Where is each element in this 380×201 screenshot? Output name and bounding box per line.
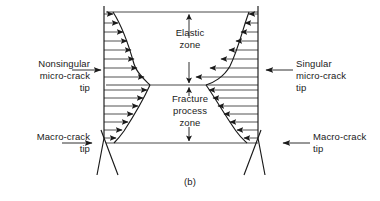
label-line: zone xyxy=(150,117,230,129)
right-crack-outer-edge xyxy=(258,6,265,175)
label-elastic-zone: Elastic zone xyxy=(152,27,228,51)
label-nonsingular-micro-crack-tip: Nonsingular micro-crack tip xyxy=(6,58,90,94)
label-line: zone xyxy=(152,39,228,51)
label-line: Nonsingular xyxy=(6,58,90,70)
figure-caption: (b) xyxy=(160,176,220,188)
figure-container: Nonsingular micro-crack tip Macro-crack … xyxy=(0,0,380,201)
label-macro-crack-tip-right: Macro-crack tip xyxy=(313,131,379,155)
label-macro-crack-tip-left: Macro-crack tip xyxy=(6,131,90,155)
right-crack-inner-edge xyxy=(244,130,261,175)
label-line: Fracture xyxy=(150,93,230,105)
label-line: Elastic xyxy=(152,27,228,39)
right-crack-face xyxy=(244,6,265,175)
left-crack-inner-edge xyxy=(101,130,118,175)
left-crack-outer-edge xyxy=(97,6,104,175)
label-singular-micro-crack-tip: Singular micro-crack tip xyxy=(296,58,376,94)
label-line: Macro-crack xyxy=(6,131,90,143)
left-crack-face xyxy=(97,6,118,175)
label-line: Singular xyxy=(296,58,376,70)
left-stress-envelope-upper xyxy=(113,12,150,85)
label-line: micro-crack xyxy=(6,70,90,82)
label-line: Macro-crack xyxy=(313,131,379,143)
label-fracture-process-zone: Fracture process zone xyxy=(150,93,230,129)
label-line: tip xyxy=(6,143,90,155)
label-line: process xyxy=(150,105,230,117)
label-line: micro-crack xyxy=(296,70,376,82)
label-line: tip xyxy=(296,82,376,94)
label-line: tip xyxy=(6,82,90,94)
label-line: tip xyxy=(313,143,379,155)
